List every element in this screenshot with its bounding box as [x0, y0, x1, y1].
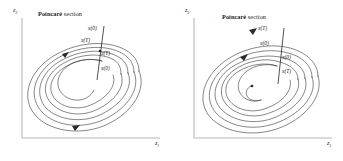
poincare-section-figure: Poincaré section x(0) x(T) x(T) x(0) z2 …	[0, 0, 343, 161]
center-dot	[251, 85, 254, 88]
left-panel-plot	[0, 0, 171, 161]
poincare-word: Poincaré	[38, 10, 62, 17]
arrowhead-label-xT	[249, 28, 257, 35]
state-label-x0-inner: x(0)	[101, 65, 110, 71]
panel-title-left: Poincaré section	[38, 10, 82, 17]
panel-title-right: Poincaré section	[222, 13, 266, 20]
y-axis-label-left: z2	[13, 7, 17, 15]
y-axis-label-right: z2	[185, 7, 189, 15]
state-label-x0-outer: x(0)	[260, 40, 269, 46]
section-word: section	[246, 13, 266, 20]
poincare-word: Poincaré	[222, 13, 246, 20]
x-axis-label-left: z1	[155, 140, 159, 148]
arrowhead-lower-left	[72, 125, 80, 131]
stable-limit-cycle-panel: Poincaré section x(T) x(0) x(0) x(T) z2 …	[172, 0, 343, 161]
state-label-xT-outer: x(T)	[81, 37, 90, 43]
trajectory-right	[203, 46, 319, 133]
trajectory-left	[28, 44, 142, 132]
state-label-xT-inner: x(T)	[282, 68, 291, 74]
x-axis-label-right: z1	[327, 140, 331, 148]
unstable-limit-cycle-panel: Poincaré section x(0) x(T) x(T) x(0) z2 …	[0, 0, 171, 161]
state-label-x0-inner: x(0)	[282, 54, 291, 60]
axes-left	[22, 18, 160, 138]
state-label-x0-outer: x(0)	[88, 25, 97, 31]
section-word: section	[62, 10, 82, 17]
state-label-xT-outer: x(T)	[258, 25, 267, 31]
state-label-xT-inner: x(T)	[101, 50, 110, 56]
